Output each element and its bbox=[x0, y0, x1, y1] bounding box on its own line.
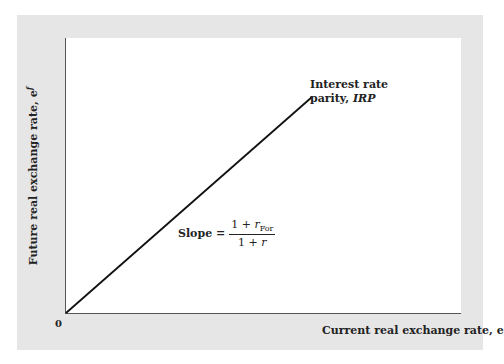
y-axis-label: Future real exchange rate, ef bbox=[24, 87, 40, 265]
origin-label: 0 bbox=[55, 318, 62, 329]
irp-curve-label: Interest rate parity, IRP bbox=[310, 78, 388, 106]
slope-fraction: 1 + rFor 1 + r bbox=[229, 218, 275, 249]
slope-annotation: Slope = 1 + rFor 1 + r bbox=[178, 218, 275, 249]
x-axis-label: Current real exchange rate, e bbox=[322, 324, 504, 337]
